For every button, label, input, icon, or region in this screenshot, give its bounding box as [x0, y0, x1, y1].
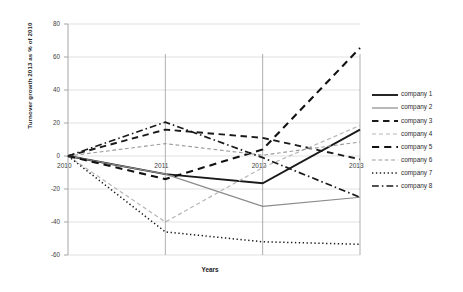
- series-line-5: [68, 48, 360, 179]
- legend-label: company 4: [401, 131, 432, 137]
- legend-label: company 3: [401, 118, 432, 124]
- legend-item-7[interactable]: company 7: [372, 167, 462, 180]
- legend-key-swatch: [372, 116, 398, 126]
- legend-key-swatch: [372, 90, 398, 100]
- legend-key-swatch: [372, 181, 398, 191]
- series-line-1: [68, 130, 360, 184]
- legend-key-swatch: [372, 168, 398, 178]
- legend-label: company 7: [401, 170, 432, 176]
- line-chart: Turnover growth 2013 as % of 2010 Years …: [0, 0, 463, 292]
- legend-key-swatch: [372, 103, 398, 113]
- legend-item-2[interactable]: company 2: [372, 101, 462, 114]
- legend-item-8[interactable]: company 8: [372, 180, 462, 193]
- series-line-7: [68, 156, 360, 244]
- chart-legend: company 1company 2company 3company 4comp…: [372, 88, 462, 193]
- legend-key-swatch: [372, 142, 398, 152]
- legend-label: company 8: [401, 183, 432, 189]
- legend-item-1[interactable]: company 1: [372, 88, 462, 101]
- legend-key-swatch: [372, 129, 398, 139]
- legend-item-3[interactable]: company 3: [372, 114, 462, 127]
- legend-label: company 2: [401, 104, 432, 110]
- legend-item-4[interactable]: company 4: [372, 127, 462, 140]
- legend-label: company 1: [401, 91, 432, 97]
- legend-label: company 6: [401, 157, 432, 163]
- legend-item-5[interactable]: company 5: [372, 140, 462, 153]
- legend-key-swatch: [372, 155, 398, 165]
- legend-label: company 5: [401, 144, 432, 150]
- legend-item-6[interactable]: company 6: [372, 153, 462, 166]
